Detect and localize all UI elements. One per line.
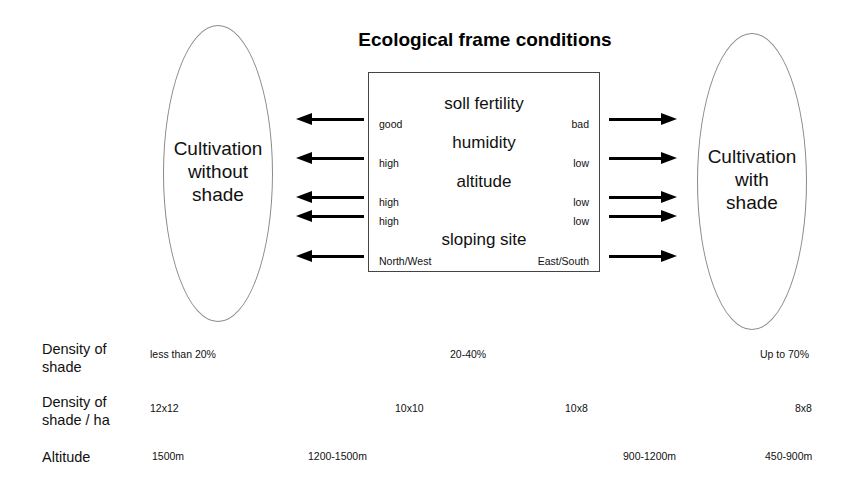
table-row-label-altitude: Altitude <box>42 448 162 466</box>
factor-right-pole-altitude: low <box>573 196 589 208</box>
table-cell-r2c1: 12x12 <box>150 402 179 414</box>
table-cell-r3c1: 1500m <box>152 450 184 462</box>
table-cell-r3c3: 900-1200m <box>623 450 676 462</box>
table-row-label-density-of-shade-per-ha: Density of shade / ha <box>42 393 162 429</box>
table-cell-r3c4: 450-900m <box>765 450 812 462</box>
factor-right-pole-soil-fertility: bad <box>571 118 589 130</box>
table-cell-r1c3: Up to 70% <box>760 348 809 360</box>
node-left-label: Cultivation without shade <box>164 137 272 206</box>
factor-left-pole-altitude: high <box>379 196 399 208</box>
factor-left-pole-humidity: high <box>379 157 399 169</box>
table-row-label-density-of-shade: Density of shade <box>42 340 162 376</box>
factor-left-pole-extra: high <box>379 215 399 227</box>
factor-name-soil-fertility: soll fertility <box>369 94 599 114</box>
page-title: Ecological frame conditions <box>340 29 630 51</box>
table-cell-r1c1: less than 20% <box>150 348 216 360</box>
table-cell-r2c2: 10x10 <box>395 402 424 414</box>
factor-right-pole-sloping-site: East/South <box>538 255 589 267</box>
factor-right-pole-extra: low <box>573 215 589 227</box>
node-cultivation-without-shade: Cultivation without shade <box>163 25 273 322</box>
node-right-label: Cultivation with shade <box>698 145 806 214</box>
diagram-canvas: Ecological frame conditions Cultivation … <box>0 0 868 498</box>
node-cultivation-with-shade: Cultivation with shade <box>697 33 807 330</box>
ecological-factors-box: soll fertility good bad humidity high lo… <box>368 72 600 272</box>
table-cell-r1c2: 20-40% <box>450 348 486 360</box>
table-cell-r2c4: 8x8 <box>795 402 812 414</box>
factor-name-humidity: humidity <box>369 133 599 153</box>
factor-name-altitude: altitude <box>369 172 599 192</box>
table-cell-r2c3: 10x8 <box>565 402 588 414</box>
factor-name-sloping-site: sloping site <box>369 230 599 250</box>
table-cell-r3c2: 1200-1500m <box>308 450 367 462</box>
factor-right-pole-humidity: low <box>573 157 589 169</box>
factor-left-pole-soil-fertility: good <box>379 118 402 130</box>
factor-left-pole-sloping-site: North/West <box>379 255 431 267</box>
